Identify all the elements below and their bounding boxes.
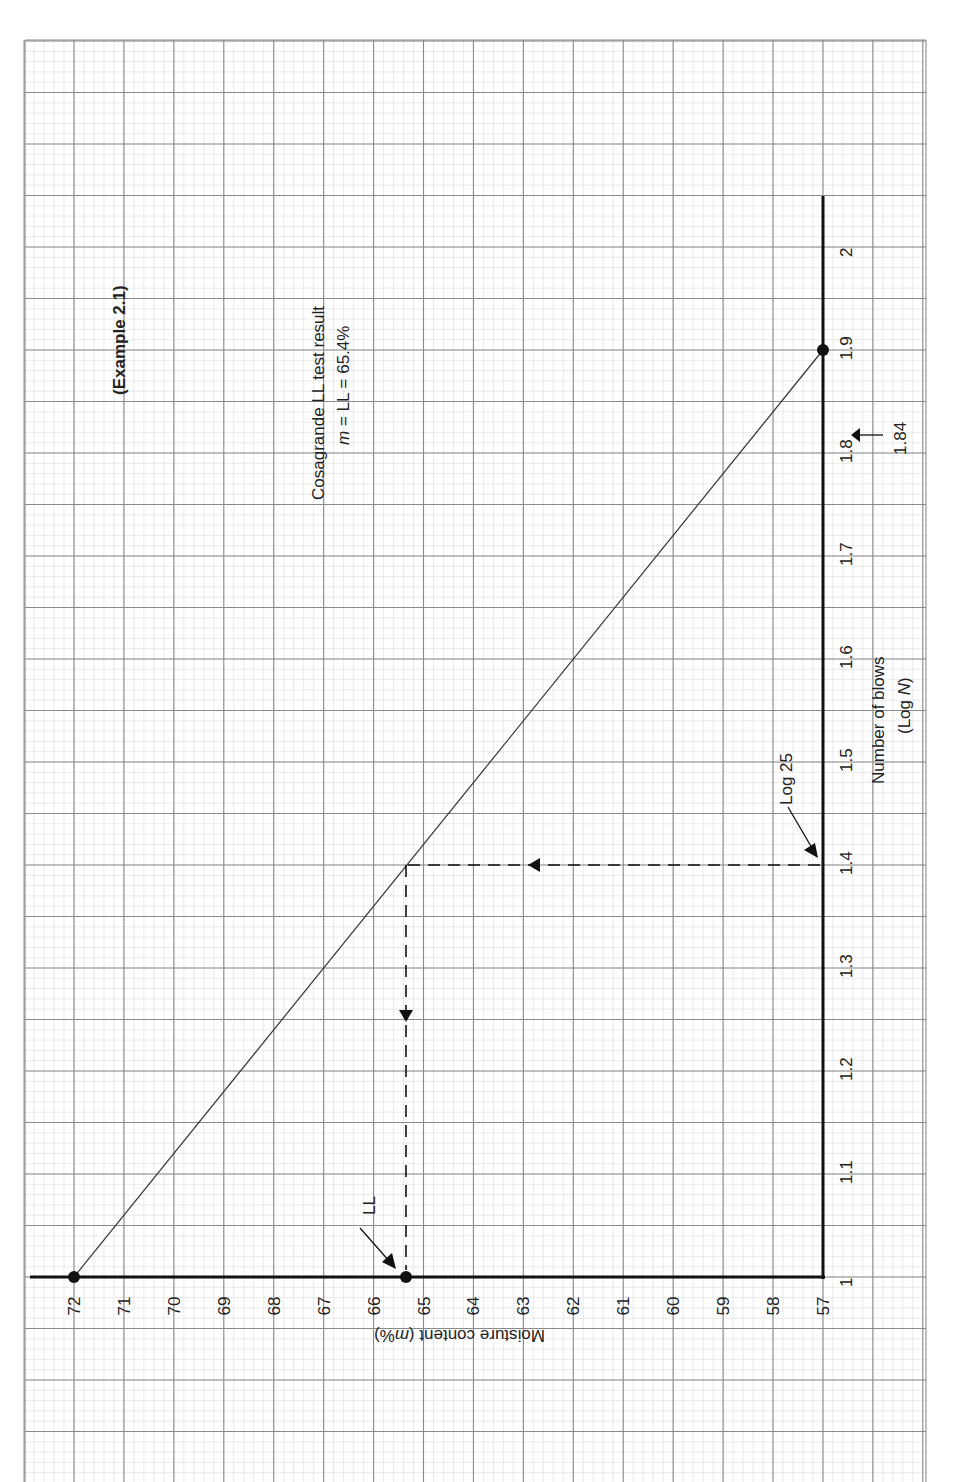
data-point-start (68, 1271, 80, 1283)
x-tick-label: 1.8 (837, 439, 856, 463)
x-tick-label: 1.6 (837, 645, 856, 669)
y-tick-label: 57 (814, 1297, 833, 1316)
y-tick-label: 70 (165, 1297, 184, 1316)
y-tick-label: 58 (764, 1297, 783, 1316)
x-tick-label: 1.4 (837, 851, 856, 875)
y-tick-label: 64 (464, 1297, 483, 1316)
x-axis-subtitle: (Log N) (895, 677, 914, 734)
x-tick-label: 1.2 (837, 1057, 856, 1081)
x-tick-label: 2 (837, 248, 856, 257)
x-tick-label: 1.5 (837, 748, 856, 772)
guide-arrow-up-icon (528, 858, 540, 872)
x-tick-label: 1 (837, 1278, 856, 1287)
y-tick-label: 60 (664, 1297, 683, 1316)
x-tick-label: 1.1 (837, 1160, 856, 1184)
y-tick-label: 63 (514, 1297, 533, 1316)
ll-label: LL (360, 1196, 379, 1215)
liquid-limit-chart: 11.11.21.31.41.51.61.71.81.92 7271706968… (0, 0, 954, 1482)
x-sub-close: ) (895, 677, 914, 683)
guide-arrow-left-icon (399, 1010, 413, 1022)
data-point-ll (400, 1271, 412, 1283)
x-tick-label: 1.3 (837, 954, 856, 978)
y-axis-title: Moisture content (m%) (374, 1326, 545, 1345)
y-tick-label: 62 (564, 1297, 583, 1316)
y-tick-label: 65 (415, 1297, 434, 1316)
result-value: m = LL = 65.4% (334, 326, 353, 445)
data-point-end (817, 344, 829, 356)
y-tick-label: 61 (614, 1297, 633, 1316)
y-tick-label: 69 (215, 1297, 234, 1316)
y-tick-label: 59 (714, 1297, 733, 1316)
x-axis-title: Number of blows (869, 656, 888, 784)
y-tick-label: 66 (365, 1297, 384, 1316)
y-tick-labels: 72717069686766656463626160595857 (65, 1297, 833, 1316)
y-title-m: m (395, 1326, 409, 1345)
y-title-pre: Moisture content ( (409, 1326, 545, 1345)
v184-label: 1.84 (891, 422, 910, 455)
x-sub-n: N (895, 682, 914, 695)
x-sub-open: (Log (895, 695, 914, 734)
y-tick-label: 71 (115, 1297, 134, 1316)
x-tick-label: 1.9 (837, 336, 856, 360)
y-tick-label: 68 (265, 1297, 284, 1316)
ll-arrow-line (360, 1228, 390, 1262)
log25-label: Log 25 (777, 753, 796, 805)
result-title: Cosagrande LL test result (309, 306, 328, 500)
m-symbol: m (334, 431, 353, 445)
y-tick-label: 72 (65, 1297, 84, 1316)
x-tick-label: 1.7 (837, 542, 856, 566)
y-tick-label: 67 (315, 1297, 334, 1316)
result-value-text: = LL = 65.4% (334, 326, 353, 431)
example-label: (Example 2.1) (110, 285, 129, 395)
y-title-post: %) (374, 1326, 395, 1345)
